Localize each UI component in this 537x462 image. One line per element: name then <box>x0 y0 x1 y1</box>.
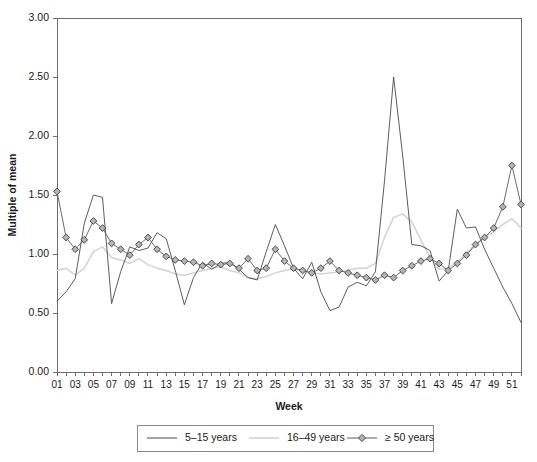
x-tick-label: 49 <box>488 379 500 390</box>
data-point-marker <box>199 262 206 269</box>
data-point-marker <box>499 203 506 210</box>
data-point-marker <box>208 260 215 267</box>
data-point-marker <box>418 258 425 265</box>
x-tick-label: 17 <box>197 379 209 390</box>
x-axis-ticks: 0103050709111315171921232527293133353739… <box>51 372 521 390</box>
data-point-marker <box>226 260 233 267</box>
y-axis-group: 0.000.501.001.502.002.503.00 <box>29 11 57 377</box>
data-point-marker <box>117 246 124 253</box>
data-point-marker <box>518 201 525 208</box>
data-point-marker <box>509 162 516 169</box>
x-tick-label: 23 <box>252 379 264 390</box>
y-tick-label: 3.00 <box>29 11 50 23</box>
x-tick-label: 27 <box>288 379 300 390</box>
legend-label-a: 5–15 years <box>185 431 237 443</box>
x-tick-label: 41 <box>415 379 427 390</box>
y-tick-label: 0.50 <box>29 306 50 318</box>
x-tick-label: 01 <box>51 379 63 390</box>
line-chart: 0.000.501.001.502.002.503.00 01030507091… <box>0 0 537 462</box>
x-tick-label: 33 <box>343 379 355 390</box>
x-tick-label: 45 <box>452 379 464 390</box>
chart-container: 0.000.501.001.502.002.503.00 01030507091… <box>0 0 537 462</box>
series-layer <box>57 77 521 322</box>
x-axis-group: 0103050709111315171921232527293133353739… <box>51 372 521 390</box>
y-tick-label: 0.00 <box>29 365 50 377</box>
x-tick-label: 25 <box>270 379 282 390</box>
x-tick-label: 31 <box>324 379 336 390</box>
x-tick-label: 51 <box>506 379 518 390</box>
x-tick-label: 03 <box>70 379 82 390</box>
x-tick-label: 21 <box>233 379 245 390</box>
series-line-a <box>57 77 521 322</box>
y-axis-ticks: 0.000.501.001.502.002.503.00 <box>29 11 57 377</box>
data-point-marker <box>299 267 306 274</box>
data-point-marker <box>54 188 61 195</box>
data-point-marker <box>354 272 361 279</box>
x-tick-label: 05 <box>88 379 100 390</box>
chart-legend: 5–15 years16–49 years≥ 50 years <box>137 425 434 451</box>
data-point-marker <box>408 262 415 269</box>
x-tick-label: 37 <box>379 379 391 390</box>
x-tick-label: 09 <box>124 379 136 390</box>
data-point-marker <box>108 240 115 247</box>
y-tick-label: 1.00 <box>29 247 50 259</box>
y-tick-label: 2.00 <box>29 129 50 141</box>
y-tick-label: 1.50 <box>29 188 50 200</box>
x-tick-label: 39 <box>397 379 409 390</box>
x-tick-label: 47 <box>470 379 482 390</box>
x-axis-title: Week <box>275 400 302 412</box>
data-point-marker <box>363 274 370 281</box>
y-axis-title: Multiple of mean <box>6 154 18 237</box>
plot-frame <box>57 18 521 372</box>
x-tick-label: 43 <box>434 379 446 390</box>
data-point-marker <box>263 265 270 272</box>
x-tick-label: 13 <box>161 379 173 390</box>
legend-label-b: 16–49 years <box>287 431 345 443</box>
y-tick-label: 2.50 <box>29 70 50 82</box>
legend-label-c: ≥ 50 years <box>385 431 434 443</box>
x-tick-label: 11 <box>143 379 154 390</box>
x-tick-label: 07 <box>106 379 118 390</box>
data-point-marker <box>381 272 388 279</box>
x-tick-label: 15 <box>179 379 191 390</box>
x-tick-label: 19 <box>215 379 227 390</box>
data-point-marker <box>372 277 379 284</box>
x-tick-label: 35 <box>361 379 373 390</box>
x-tick-label: 29 <box>306 379 318 390</box>
data-point-marker <box>190 259 197 266</box>
data-point-marker <box>181 258 188 265</box>
